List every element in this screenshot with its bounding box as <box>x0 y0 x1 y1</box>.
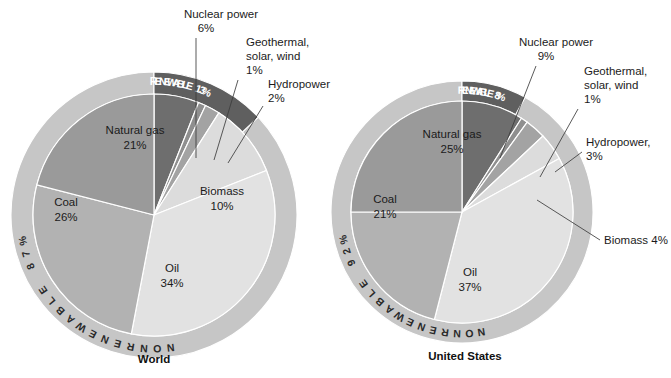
pie-chart-united-states: RENEWABLE8%NONRENEWABLE92%Nuclear power9… <box>331 36 668 362</box>
label-hydropower: Hydropower2% <box>268 78 330 104</box>
label-hydropower: Hydropower,3% <box>586 136 651 162</box>
label-geothermal-solar-wind-line1: Geothermal, <box>246 36 309 48</box>
pie-slice-natural-gas <box>351 101 462 212</box>
label-hydropower-line2: 2% <box>268 92 285 104</box>
ring-label-char: O <box>464 328 474 340</box>
label-oil-line1: Oil <box>165 262 179 274</box>
label-biomass-line1: Biomass 4% <box>604 234 668 246</box>
label-oil-line2: 37% <box>458 281 481 293</box>
label-coal-line1: Coal <box>54 196 78 208</box>
label-hydropower-line1: Hydropower, <box>586 136 651 148</box>
label-biomass-line2: 10% <box>210 200 233 212</box>
label-natural-gas-line1: Natural gas <box>106 124 165 136</box>
label-nuclear-power-line1: Nuclear power <box>519 36 593 48</box>
label-geothermal-solar-wind: Geothermal,solar, wind1% <box>584 65 647 105</box>
label-coal-line1: Coal <box>373 193 397 205</box>
label-geothermal-solar-wind-line2: solar, wind <box>246 50 300 62</box>
figure-canvas: RENEWABLE13%NONRENEWABLE87%Nuclear power… <box>0 0 671 378</box>
chart-caption-world: World <box>138 353 170 365</box>
label-oil-line1: Oil <box>463 266 477 278</box>
label-nuclear-power-line2: 6% <box>198 22 215 34</box>
label-hydropower-line2: 3% <box>586 150 603 162</box>
label-nuclear-power-line1: Nuclear power <box>184 8 258 20</box>
label-geothermal-solar-wind: Geothermal,solar, wind1% <box>246 36 309 76</box>
ring-label-char: R <box>440 326 450 339</box>
label-biomass-line1: Biomass <box>200 185 244 197</box>
label-geothermal-solar-wind-line1: Geothermal, <box>584 65 647 77</box>
label-hydropower-line1: Hydropower <box>268 78 330 90</box>
chart-caption-united-states: United States <box>428 350 502 362</box>
label-oil-line2: 34% <box>160 277 183 289</box>
label-geothermal-solar-wind-line2: solar, wind <box>584 79 638 91</box>
label-natural-gas-line1: Natural gas <box>423 128 482 140</box>
label-natural-gas-line2: 25% <box>440 143 463 155</box>
pie-chart-world: RENEWABLE13%NONRENEWABLE87%Nuclear power… <box>11 8 330 365</box>
ring-label-char: N <box>452 328 461 340</box>
label-nuclear-power: Nuclear power9% <box>519 36 593 62</box>
label-coal-line2: 26% <box>54 211 77 223</box>
label-geothermal-solar-wind-line3: 1% <box>584 93 601 105</box>
label-natural-gas-line2: 21% <box>123 139 146 151</box>
label-nuclear-power: Nuclear power6% <box>184 8 258 34</box>
label-nuclear-power-line2: 9% <box>538 50 555 62</box>
label-coal-line2: 21% <box>373 208 396 220</box>
label-biomass: Biomass 4% <box>604 234 668 246</box>
label-geothermal-solar-wind-line3: 1% <box>246 64 263 76</box>
energy-sources-pie-figure: RENEWABLE13%NONRENEWABLE87%Nuclear power… <box>0 0 671 378</box>
